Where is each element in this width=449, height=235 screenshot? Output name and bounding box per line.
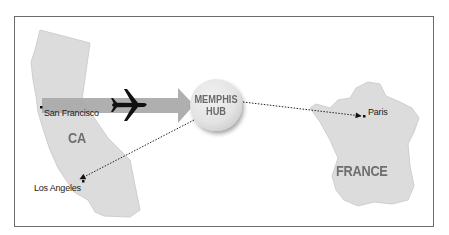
paris-marker [363,115,366,118]
city-label-paris: Paris [368,107,388,117]
region-label-france: FRANCE [336,162,388,179]
los-angeles-marker [82,180,85,183]
city-label-san-francisco: San Francisco [44,108,99,118]
airplane-icon [111,89,147,121]
san-francisco-marker [40,106,43,109]
france-map [310,82,419,206]
region-label-ca: CA [68,129,86,146]
hub-label-line1: MEMPHIS [190,93,243,105]
hub-label: MEMPHIS HUB [190,93,243,117]
hub-label-line2: HUB [190,105,243,117]
city-label-los-angeles: Los Angeles [34,183,81,193]
